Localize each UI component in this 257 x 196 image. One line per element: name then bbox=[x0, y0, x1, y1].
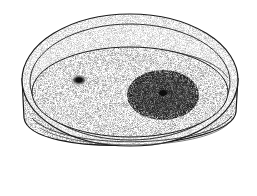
colony-large bbox=[127, 70, 199, 120]
petri-dish-drawing bbox=[0, 0, 257, 196]
colony-small bbox=[73, 76, 85, 84]
petri-dish-illustration: Petri dish Small colony Large colony wit… bbox=[0, 0, 257, 196]
